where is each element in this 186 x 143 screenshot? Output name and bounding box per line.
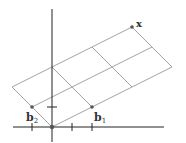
b2-point xyxy=(30,105,34,109)
b1-point xyxy=(90,105,94,109)
grid-line xyxy=(92,47,132,87)
label-x: x xyxy=(136,18,143,29)
label-b1: b1 xyxy=(94,111,106,125)
grid-line xyxy=(132,27,172,67)
grid-line xyxy=(12,27,132,87)
lattice-points xyxy=(30,25,134,129)
grid-line xyxy=(32,47,152,107)
label-b2: b2 xyxy=(26,111,38,125)
lattice-diagram: b1 b2 x xyxy=(0,0,186,143)
x-point xyxy=(130,25,134,29)
grid-line xyxy=(52,67,172,127)
grid-line xyxy=(52,67,92,107)
origin-point xyxy=(50,125,54,129)
lattice-grid xyxy=(12,27,172,127)
